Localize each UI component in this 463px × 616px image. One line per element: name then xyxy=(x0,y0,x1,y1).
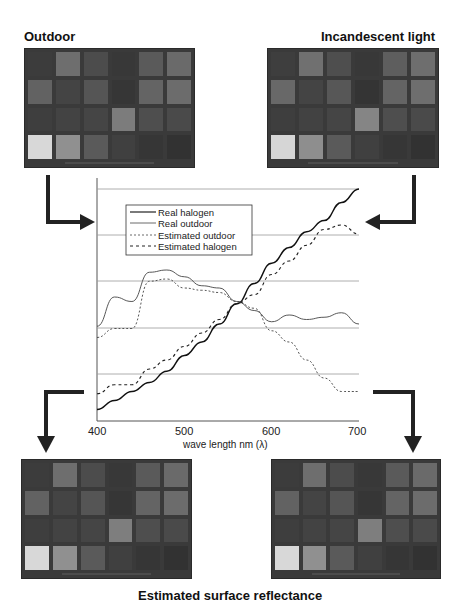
arrow-chart-to-estimated-left-icon xyxy=(46,392,84,440)
legend-real-outdoor: Real outdoor xyxy=(158,218,212,229)
series-estimated-outdoor xyxy=(97,279,359,392)
legend-estimated-outdoor: Estimated outdoor xyxy=(158,230,235,241)
diagram-canvas: Real halogen Real outdoor Estimated outd… xyxy=(0,0,463,616)
arrow-outdoor-to-chart-icon xyxy=(48,175,82,222)
legend-real-halogen: Real halogen xyxy=(158,207,214,218)
x-axis-label: wave length nm (λ) xyxy=(183,439,267,450)
arrow-head-right-icon xyxy=(80,214,95,230)
x-tick-700: 700 xyxy=(348,425,366,437)
legend-estimated-halogen: Estimated halogen xyxy=(158,241,237,252)
arrow-head-down-icon xyxy=(404,436,422,453)
arrow-chart-to-estimated-right-icon xyxy=(373,392,413,440)
x-tick-400: 400 xyxy=(88,425,106,437)
arrow-incandescent-to-chart-icon xyxy=(378,175,414,222)
chart-legend: Real halogen Real outdoor Estimated outd… xyxy=(126,205,252,255)
x-tick-600: 600 xyxy=(262,425,280,437)
series-real-outdoor xyxy=(97,270,359,326)
arrow-head-down-icon xyxy=(37,436,55,453)
arrow-head-left-icon xyxy=(365,214,380,230)
x-tick-500: 500 xyxy=(175,425,193,437)
